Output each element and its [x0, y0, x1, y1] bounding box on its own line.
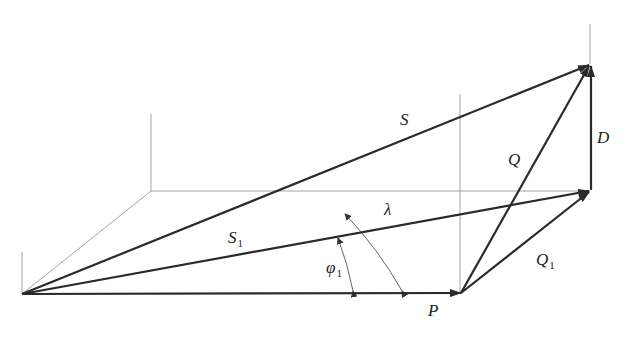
vector-Q	[461, 66, 589, 293]
phi1-arc	[338, 238, 353, 291]
labels: S S1 Q Q1 D P λ φ1	[228, 110, 610, 320]
guide-origin-diagonal	[22, 191, 151, 294]
label-Q1: Q1	[536, 250, 555, 271]
label-lambda: λ	[383, 200, 391, 219]
label-S1: S1	[228, 228, 243, 249]
guide-lines	[22, 24, 590, 294]
power-vector-diagram: S S1 Q Q1 D P λ φ1	[0, 0, 632, 339]
vectors	[22, 65, 591, 294]
vector-S1	[22, 191, 589, 294]
vector-P	[22, 293, 461, 294]
label-S: S	[400, 110, 409, 129]
label-D: D	[596, 128, 610, 147]
angle-arcs	[338, 214, 402, 291]
vector-Q1	[461, 192, 589, 293]
label-Q: Q	[508, 150, 520, 169]
label-phi1: φ1	[326, 258, 342, 279]
label-P: P	[427, 301, 438, 320]
